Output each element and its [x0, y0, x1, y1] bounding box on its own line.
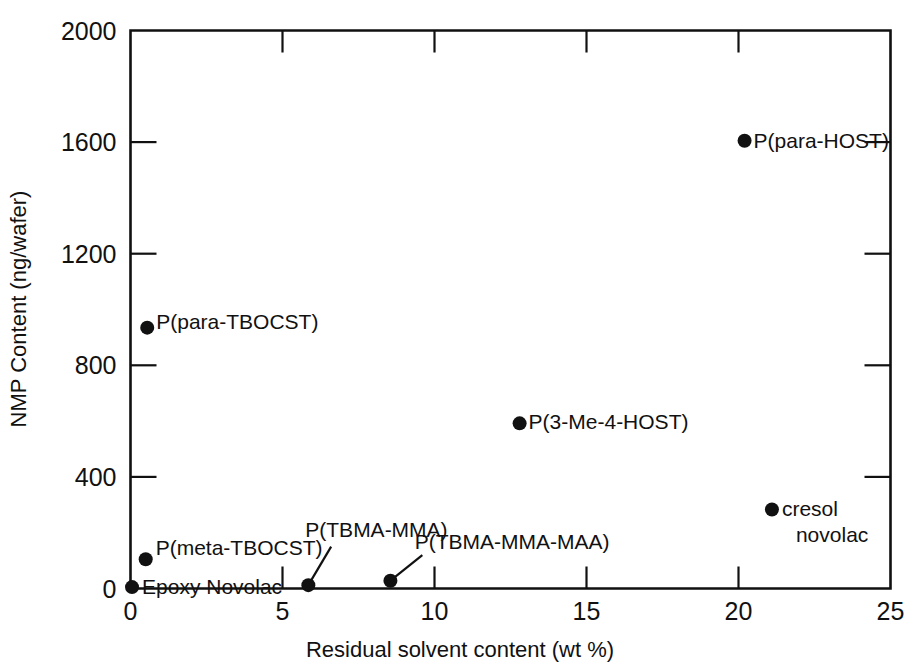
data-point-group: Epoxy Novolac [125, 575, 282, 598]
x-tick-label-20: 20 [725, 597, 753, 625]
data-point-label-line2: novolac [796, 523, 868, 546]
data-point-group: P(TBMA-MMA-MAA) [383, 530, 609, 588]
data-point-group: cresolnovolac [765, 497, 868, 546]
data-point-marker [383, 574, 397, 588]
data-point-marker [765, 503, 779, 517]
figure-page: 0510152025 0400800120016002000 P(para-HO… [0, 0, 920, 671]
data-point-label: P(meta-TBOCST) [156, 536, 323, 559]
data-point-marker [301, 578, 315, 592]
data-point-marker [125, 580, 139, 594]
data-point-marker [139, 552, 153, 566]
data-point-label: P(TBMA-MMA-MAA) [415, 530, 610, 553]
y-tick-label-800: 800 [75, 351, 117, 379]
data-point-label: P(para-TBOCST) [156, 310, 318, 333]
data-point-group: P(3-Me-4-HOST) [513, 410, 689, 433]
y-tick-label-1200: 1200 [61, 240, 117, 268]
y-axis-tick-labels: 0400800120016002000 [61, 17, 117, 603]
data-point-label: cresol [782, 497, 838, 520]
x-tick-label-15: 15 [573, 597, 601, 625]
y-axis-title: NMP Content (ng/wafer) [6, 191, 31, 428]
y-tick-label-400: 400 [75, 463, 117, 491]
x-tick-label-10: 10 [421, 597, 449, 625]
y-tick-label-1600: 1600 [61, 128, 117, 156]
right-axis-ticks [865, 142, 891, 477]
data-point-marker [738, 134, 752, 148]
data-point-group: P(para-TBOCST) [140, 310, 318, 335]
x-tick-label-5: 5 [276, 597, 290, 625]
y-axis-ticks [131, 142, 157, 477]
x-axis-title: Residual solvent content (wt %) [306, 637, 614, 662]
data-point-group: P(meta-TBOCST) [139, 536, 323, 566]
x-axis-tick-labels: 0510152025 [124, 597, 905, 625]
data-point-label: P(3-Me-4-HOST) [529, 410, 689, 433]
data-point-label: P(para-HOST) [754, 129, 889, 152]
top-axis-ticks [283, 31, 739, 53]
data-point-marker [140, 321, 154, 335]
scatter-plot-figure: 0510152025 0400800120016002000 P(para-HO… [0, 0, 920, 671]
data-point-marker [513, 416, 527, 430]
data-point-group: P(para-HOST) [738, 129, 889, 152]
data-point-label: Epoxy Novolac [142, 575, 282, 598]
x-tick-label-25: 25 [877, 597, 905, 625]
y-tick-label-0: 0 [103, 575, 117, 603]
data-point-series: P(para-HOST)P(para-TBOCST)P(3-Me-4-HOST)… [125, 129, 889, 598]
x-tick-label-0: 0 [124, 597, 138, 625]
x-axis-ticks [283, 567, 739, 589]
y-tick-label-2000: 2000 [61, 17, 117, 45]
